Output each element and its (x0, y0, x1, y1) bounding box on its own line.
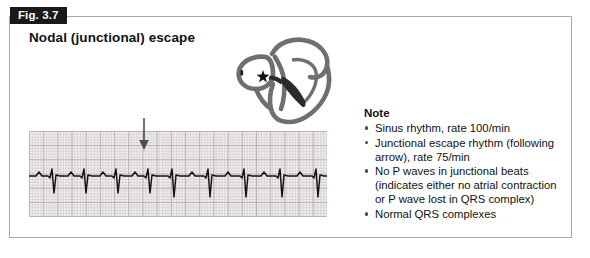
list-item: Normal QRS complexes (364, 207, 569, 221)
list-item: Junctional escape rhythm (following arro… (364, 136, 569, 164)
bullet-icon (365, 126, 368, 129)
note-heading: Note (364, 107, 569, 119)
note-item-text: Normal QRS complexes (375, 208, 496, 220)
list-item: No P waves in junctional beats (indicate… (364, 164, 569, 206)
bullet-icon (365, 212, 368, 215)
figure-title: Nodal (junctional) escape (29, 30, 195, 45)
down-arrow-icon (136, 117, 152, 151)
figure-card: Fig. 3.7 Nodal (junctional) escape (0, 0, 590, 258)
bullet-icon (365, 169, 368, 172)
figure-number-tab: Fig. 3.7 (10, 7, 67, 24)
ecg-strip (29, 131, 327, 217)
sa-node-marker-icon (241, 70, 244, 76)
note-item-text: Junctional escape rhythm (following arro… (375, 137, 554, 163)
note-item-text: No P waves in junctional beats (indicate… (375, 165, 556, 205)
note-item-text: Sinus rhythm, rate 100/min (375, 122, 510, 134)
bullet-icon (365, 141, 368, 144)
heart-cross-section-diagram (232, 30, 360, 125)
star-icon (257, 70, 270, 82)
ecg-trace (29, 131, 327, 217)
note-panel: Note Sinus rhythm, rate 100/min Junction… (364, 107, 569, 222)
note-list: Sinus rhythm, rate 100/min Junctional es… (364, 121, 569, 221)
list-item: Sinus rhythm, rate 100/min (364, 121, 569, 135)
